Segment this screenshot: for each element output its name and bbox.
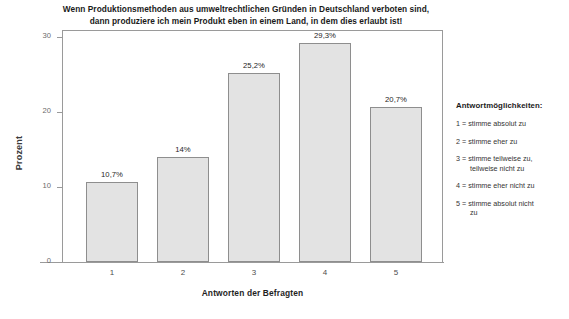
bar[interactable]	[86, 182, 138, 262]
legend-items: 1 = stimme absolut zu2 = stimme eher zu3…	[456, 119, 564, 218]
legend-item: 2 = stimme eher zu	[456, 137, 564, 147]
legend-item-line-1: 5 = stimme absolut nicht	[456, 199, 534, 208]
bar-value-label: 14%	[149, 145, 217, 154]
y-tick-label: 20	[43, 106, 51, 115]
y-tick: 0	[0, 262, 62, 263]
x-tick-label: 3	[226, 268, 282, 277]
chart-title: Wenn Produktionsmethoden aus umweltrecht…	[46, 4, 446, 27]
y-tick: 20	[0, 112, 62, 113]
bar-chart-figure: Wenn Produktionsmethoden aus umweltrecht…	[0, 0, 569, 319]
y-tick: 30	[0, 37, 62, 38]
y-axis-label: Prozent	[14, 118, 24, 188]
bar[interactable]	[299, 43, 351, 262]
chart-title-line-2: dann produziere ich mein Produkt eben in…	[46, 16, 446, 28]
bar-value-label: 29,3%	[291, 31, 359, 40]
bar[interactable]	[157, 157, 209, 262]
legend-item: 4 = stimme eher nicht zu	[456, 181, 564, 191]
bar-value-label: 25,2%	[220, 61, 288, 70]
legend-item-line-1: 2 = stimme eher zu	[456, 137, 517, 146]
bar[interactable]	[370, 107, 422, 262]
x-axis-line	[40, 262, 444, 263]
y-tick-label: 0	[47, 256, 51, 265]
legend-item: 3 = stimme teilweise zu,teilweise nicht …	[456, 154, 564, 173]
x-axis-label: Antworten der Befragten	[62, 288, 443, 298]
bar-slot[interactable]: 25,2%	[226, 30, 282, 262]
bar-value-label: 10,7%	[78, 170, 146, 179]
bar-series: 10,7%14%25,2%29,3%20,7%	[62, 30, 443, 262]
bar-slot[interactable]: 10,7%	[84, 30, 140, 262]
bar[interactable]	[228, 73, 280, 262]
bar-slot[interactable]: 14%	[155, 30, 211, 262]
x-tick-label: 2	[155, 268, 211, 277]
legend-item-line-1: 1 = stimme absolut zu	[456, 119, 526, 128]
legend-item-line-1: 3 = stimme teilweise zu,	[456, 154, 533, 163]
chart-title-line-1: Wenn Produktionsmethoden aus umweltrecht…	[46, 4, 446, 16]
legend-item: 1 = stimme absolut zu	[456, 119, 564, 129]
legend-panel: Antwortmöglichkeiten: 1 = stimme absolut…	[456, 101, 564, 226]
y-tick: 10	[0, 187, 62, 188]
legend-item-line-1: 4 = stimme eher nicht zu	[456, 181, 535, 190]
legend-item: 5 = stimme absolut nichtzu	[456, 199, 564, 218]
bar-slot[interactable]: 29,3%	[297, 30, 353, 262]
legend-item-line-2: teilweise nicht zu	[456, 164, 564, 174]
x-tick-label: 5	[368, 268, 424, 277]
y-tick-label: 30	[43, 31, 51, 40]
legend-heading: Antwortmöglichkeiten:	[456, 101, 564, 110]
y-tick-label: 10	[43, 181, 51, 190]
bar-value-label: 20,7%	[362, 95, 430, 104]
bar-slot[interactable]: 20,7%	[368, 30, 424, 262]
x-tick-label: 4	[297, 268, 353, 277]
legend-item-line-2: zu	[456, 208, 564, 218]
x-tick-label: 1	[84, 268, 140, 277]
